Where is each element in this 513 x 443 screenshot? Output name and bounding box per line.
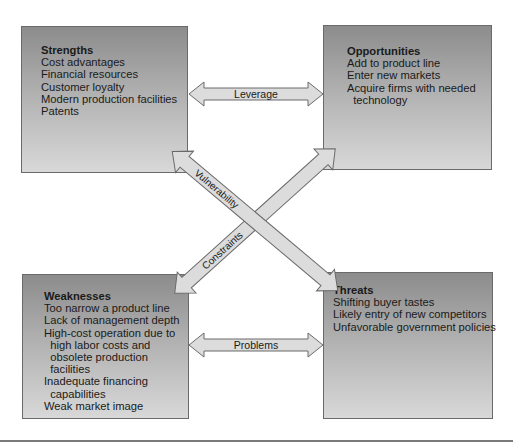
problems-arrow: Problems xyxy=(189,333,323,357)
constraints-label: Constraints xyxy=(200,229,245,271)
problems-label: Problems xyxy=(234,339,278,351)
leverage-label: Leverage xyxy=(234,88,278,100)
bottom-rule xyxy=(0,440,513,442)
arrows-layer: Leverage Problems Constraints Vulnerabil… xyxy=(0,0,513,443)
leverage-arrow: Leverage xyxy=(189,82,323,106)
vulnerability-label: Vulnerability xyxy=(192,167,241,210)
